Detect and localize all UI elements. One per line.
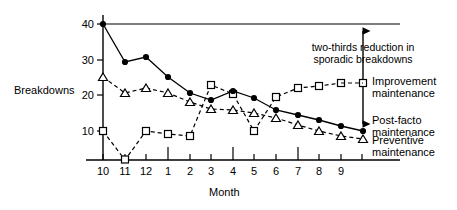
- series-preventive-maintenance: [99, 73, 368, 143]
- x-tick-label-3: 1: [157, 165, 179, 177]
- reduction-annotation-line-2: sporadic breakdowns: [269, 54, 457, 66]
- chart-plot-area: [0, 0, 457, 210]
- x-tick-label-6: 4: [222, 165, 244, 177]
- series-label-preventive-line-1: Preventive: [372, 134, 424, 146]
- x-tick-label-9: 7: [287, 165, 309, 177]
- y-tick-label-40: 40: [72, 18, 94, 30]
- x-tick-label-1: 11: [114, 165, 136, 177]
- x-tick-label-4: 2: [179, 165, 201, 177]
- x-tick-label-7: 5: [243, 165, 265, 177]
- x-axis-ticks: [103, 147, 362, 160]
- x-tick-label-5: 3: [200, 165, 222, 177]
- breakdowns-line-chart: 40 30 20 10 Breakdowns 10 11 12 1 2 3 4 …: [0, 0, 457, 210]
- series-label-improvement-line-1: Improvement: [372, 75, 436, 87]
- x-tick-label-0: 10: [92, 165, 114, 177]
- axis-lines: [86, 15, 400, 160]
- x-tick-label-2: 12: [135, 165, 157, 177]
- x-tick-label-10: 8: [308, 165, 330, 177]
- series-label-post-facto-line-1: Post-facto: [372, 114, 422, 126]
- series-label-preventive-line-2: maintenance: [372, 146, 435, 158]
- reduction-annotation-line-1: two-thirds reduction in: [269, 42, 457, 54]
- y-tick-label-20: 20: [72, 89, 94, 101]
- series-label-improvement-line-2: maintenance: [372, 87, 435, 99]
- series-post-facto-maintenance: [100, 21, 366, 134]
- y-tick-label-10: 10: [72, 125, 94, 137]
- x-axis-title: Month: [209, 186, 240, 198]
- y-tick-label-30: 30: [72, 54, 94, 66]
- y-axis-title: Breakdowns: [14, 84, 75, 96]
- x-tick-label-11: 9: [330, 165, 352, 177]
- x-tick-label-8: 6: [265, 165, 287, 177]
